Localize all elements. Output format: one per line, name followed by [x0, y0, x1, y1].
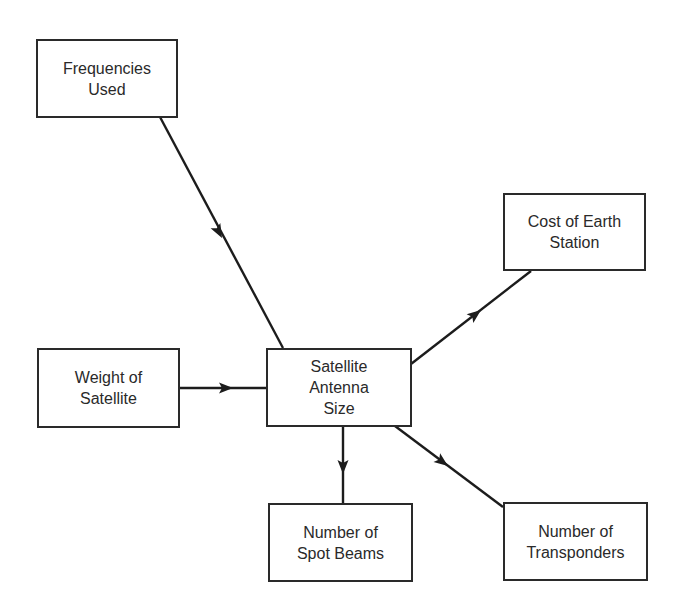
node-label: Number of Transponders: [526, 521, 624, 563]
node-label: Cost of Earth Station: [528, 211, 621, 253]
node-frequencies-used: Frequencies Used: [36, 39, 178, 118]
edge-antenna-to-spotbeams: [338, 427, 349, 503]
node-satellite-antenna-size: Satellite Antenna Size: [266, 348, 412, 427]
diagram-canvas: Frequencies Used Weight of Satellite Sat…: [0, 0, 684, 608]
node-label: Weight of Satellite: [75, 367, 142, 409]
edge-line: [411, 271, 531, 364]
arrowhead-icon: [211, 223, 222, 238]
edge-line: [395, 426, 503, 507]
node-number-of-transponders: Number of Transponders: [503, 502, 648, 581]
node-weight-of-satellite: Weight of Satellite: [37, 348, 180, 428]
node-number-of-spot-beams: Number of Spot Beams: [268, 503, 413, 582]
node-label: Frequencies Used: [63, 58, 151, 100]
edge-antenna-to-transponders: [395, 426, 503, 507]
edge-antenna-to-cost: [411, 271, 531, 364]
node-label: Number of Spot Beams: [297, 522, 384, 564]
node-cost-of-earth-station: Cost of Earth Station: [503, 193, 646, 271]
arrowhead-icon: [467, 310, 481, 323]
edge-line: [160, 117, 283, 348]
edge-weight-to-antenna: [180, 383, 266, 394]
node-label: Satellite Antenna Size: [309, 356, 369, 419]
edge-frequencies-to-antenna: [160, 117, 283, 348]
